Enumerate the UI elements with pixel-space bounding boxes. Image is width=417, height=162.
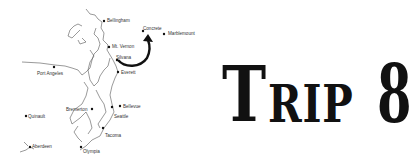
title-rest: RIP bbox=[268, 78, 354, 130]
coastline bbox=[20, 9, 118, 152]
city-marker-icon bbox=[53, 66, 55, 68]
city-marker-icon bbox=[25, 115, 27, 117]
trip-title: T RIP 8 bbox=[222, 40, 417, 130]
city-label: Bremerton bbox=[66, 107, 88, 112]
city-label: Marblemount bbox=[168, 31, 196, 36]
title-number: 8 bbox=[377, 58, 412, 130]
city-label: Mt. Vernon bbox=[112, 44, 135, 49]
city-marker-icon bbox=[119, 105, 121, 107]
arrow-head-icon bbox=[143, 34, 153, 42]
city-marker-icon bbox=[102, 127, 104, 129]
title-first-letter: T bbox=[222, 60, 267, 130]
city-label: Port Angeles bbox=[37, 71, 64, 76]
city-label: Silvana bbox=[116, 55, 132, 60]
trip-route-map: BellinghamConcreteMarblemountMt. VernonS… bbox=[0, 0, 210, 162]
city-label: Olympia bbox=[83, 149, 100, 154]
city-marker-icon bbox=[91, 108, 93, 110]
city-label: Bellevue bbox=[123, 104, 141, 109]
city-marker-icon bbox=[111, 106, 113, 108]
city-label: Quinault bbox=[28, 114, 46, 119]
city-label: Concrete bbox=[143, 26, 162, 31]
city-label: Tacoma bbox=[105, 133, 122, 138]
city-marker-icon bbox=[80, 146, 82, 148]
city-marker-icon bbox=[117, 71, 119, 73]
city-marker-icon bbox=[29, 146, 31, 148]
city-label: Bellingham bbox=[107, 18, 130, 23]
city-label: Aberdeen bbox=[32, 144, 52, 149]
city-label: Seattle bbox=[114, 114, 129, 119]
city-marker-icon bbox=[108, 46, 110, 48]
city-markers: BellinghamConcreteMarblemountMt. VernonS… bbox=[25, 18, 196, 154]
city-label: Everett bbox=[121, 70, 136, 75]
city-marker-icon bbox=[163, 33, 165, 35]
city-marker-icon bbox=[103, 20, 105, 22]
